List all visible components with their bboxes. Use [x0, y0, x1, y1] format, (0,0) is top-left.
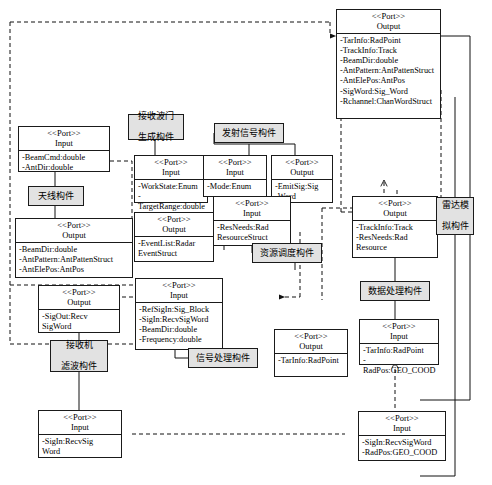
component-emit-signal[interactable]: 发射信号构件: [214, 123, 284, 143]
port-attributes: -Mode:Enum: [204, 180, 266, 194]
port-attr: -WorkState:Enum: [138, 182, 204, 192]
port-attr: -BeamDir:double: [19, 245, 129, 255]
port-attributes: -TarInfo:RadPoint -TrackInfo:Track -Beam…: [337, 34, 440, 109]
uml-component-port-diagram: <<Port>> Output -RecvChW:Channel Word <<…: [0, 0, 492, 485]
port-attr: -ResNeeds:Rad: [217, 223, 287, 233]
port-recvfilter-output[interactable]: <<Port>> Output -SigOut:Recv SigWord: [38, 285, 120, 333]
port-attr: Resource: [356, 243, 434, 253]
component-label-line2: 拟构件: [442, 221, 469, 232]
port-attr: -AntDir:double: [22, 163, 106, 173]
port-attr: -AntElePos:AntPos: [19, 265, 129, 275]
port-ressched-input[interactable]: <<Port>> Input -ResNeeds:Rad ResourceStr…: [213, 196, 291, 246]
port-kind: Input: [41, 423, 119, 433]
component-label-line1: 信号处理构件: [196, 353, 250, 364]
component-receiver-filter[interactable]: 接收机 滤波构件: [50, 340, 108, 372]
port-header: <<Port>> Input: [360, 320, 438, 344]
port-kind: Output: [339, 22, 438, 32]
port-attr: ResourceStruct: [217, 233, 287, 243]
port-attr: -TarInfo:RadPoint: [340, 36, 437, 46]
port-radarsim-input[interactable]: <<Port>> Input -SigIn:RecvSigWord -RadPo…: [358, 411, 446, 461]
port-header: <<Port>> Output: [353, 197, 437, 221]
component-resource-scheduling[interactable]: 资源调度构件: [252, 243, 322, 263]
port-attr: -ResNeeds:Rad: [356, 233, 434, 243]
component-label-line2: 滤波构件: [61, 361, 97, 372]
component-label-line1: 接收波门: [138, 111, 174, 122]
port-ressched-output[interactable]: <<Port>> Output -TrackInfo:Track -ResNee…: [352, 196, 438, 258]
port-attr: -RadPos:GEO_COOD: [363, 356, 435, 376]
component-data-processing[interactable]: 数据处理构件: [360, 281, 430, 301]
port-attr: -SigIn:RecvSigWord: [362, 438, 442, 448]
port-header: <<Port>> Output: [39, 286, 119, 310]
port-attributes: -WorkState:Enum -TargetRange:double: [135, 180, 207, 214]
port-dataproc-input[interactable]: <<Port>> Input -TarInfo:RadPoint -RadPos…: [359, 319, 439, 365]
port-antenna-input[interactable]: <<Port>> Input -BeamCmd:double -AntDir:d…: [18, 126, 110, 172]
port-kind: Output: [277, 342, 345, 352]
port-attr: Word: [42, 447, 118, 457]
component-label-line2: 生成构件: [138, 132, 174, 143]
port-attr: -AntElePos:AntPos: [340, 76, 437, 86]
port-header: <<Port>> Input: [136, 279, 222, 303]
port-attr: -EmitSig:Sig: [275, 182, 329, 192]
port-header: <<Port>> Output: [275, 330, 347, 354]
port-kind: Output: [41, 298, 117, 308]
component-antenna[interactable]: 天线构件: [28, 186, 84, 206]
port-attr: -SigIn:RecvSigWord: [139, 315, 219, 325]
port-attributes: -ResNeeds:Rad ResourceStruct: [214, 221, 290, 245]
component-recv-gate[interactable]: 接收波门 生成构件: [128, 114, 184, 140]
port-attributes: -BeamDir:double -AntPattern:AntPattenStr…: [16, 243, 132, 277]
component-radar-simulation[interactable]: 雷达模 拟构件: [436, 197, 474, 235]
port-emitsignal-input[interactable]: <<Port>> Input -Mode:Enum: [203, 155, 267, 197]
port-antenna-output[interactable]: <<Port>> Output -BeamDir:double -AntPatt…: [15, 218, 133, 278]
port-sigproc-input[interactable]: <<Port>> Input -RefSigIn:Sig_Block -SigI…: [135, 278, 223, 350]
port-kind: Input: [362, 332, 436, 342]
component-label-line1: 数据处理构件: [368, 286, 422, 297]
port-attr: -SigOut:Recv: [42, 312, 116, 322]
port-header: <<Port>> Input: [359, 412, 445, 436]
port-attr: -AntPattern:AntPattenStruct: [19, 255, 129, 265]
port-kind: Output: [274, 168, 330, 178]
port-header: <<Port>> Input: [39, 411, 121, 435]
port-kind: Input: [137, 168, 205, 178]
port-attr: -Frequency:double: [139, 335, 219, 345]
port-attr: -TarInfo:RadPoint: [363, 346, 435, 356]
port-kind: Input: [216, 209, 288, 219]
port-attr: -AntPattern:AntPattenStruct: [340, 66, 437, 76]
port-sigproc-output[interactable]: <<Port>> Output -TarInfo:RadPoint: [274, 329, 348, 377]
port-header: <<Port>> Output: [272, 156, 332, 180]
port-radarsim-output[interactable]: <<Port>> Output -TarInfo:RadPoint -Track…: [336, 9, 441, 119]
port-attributes: -SigIn:RecvSig Word: [39, 435, 121, 459]
port-attributes: -SigIn:RecvSigWord -RadPos:GEO_COOD: [359, 436, 445, 460]
component-signal-processing[interactable]: 信号处理构件: [188, 348, 258, 368]
port-attr: -TrackInfo:Track: [356, 223, 434, 233]
port-attr: -BeamDir:double: [340, 56, 437, 66]
port-attr: SigWord: [42, 322, 116, 332]
port-attr: -RadPos:GEO_COOD: [362, 448, 442, 458]
port-kind: Input: [21, 139, 107, 149]
component-label-line1: 天线构件: [38, 191, 74, 202]
port-recvgate-input[interactable]: <<Port>> Input -WorkState:Enum -TargetRa…: [134, 155, 208, 203]
port-header: <<Port>> Input: [135, 156, 207, 180]
port-attr: -Mode:Enum: [207, 182, 263, 192]
port-attr: -BeamCmd:double: [22, 153, 106, 163]
port-attributes: -TarInfo:RadPoint -RadPos:GEO_COOD: [360, 344, 438, 378]
port-kind: Input: [361, 424, 443, 434]
port-kind: Output: [355, 209, 435, 219]
port-attr: -TargetRange:double: [138, 192, 204, 212]
port-kind: Input: [206, 168, 264, 178]
port-attr: EventStruct: [138, 249, 210, 259]
port-attr: -SigWord:Sig_Word: [340, 87, 437, 97]
port-attr: -RefSigIn:Sig_Block: [139, 305, 219, 315]
port-kind: Output: [18, 231, 130, 241]
port-recvfilter-input[interactable]: <<Port>> Input -SigIn:RecvSig Word: [38, 410, 122, 458]
component-label-line1: 接收机: [61, 340, 97, 351]
port-header: <<Port>> Output: [337, 10, 440, 34]
port-header: <<Port>> Input: [214, 197, 290, 221]
component-label-line1: 发射信号构件: [222, 128, 276, 139]
port-header: <<Port>> Output: [135, 213, 213, 237]
component-label-line1: 雷达模: [442, 200, 469, 211]
component-label-line1: 资源调度构件: [260, 248, 314, 259]
port-recvgate-output-eventlist[interactable]: <<Port>> Output -EventList:Radar EventSt…: [134, 212, 214, 262]
port-attr: -SigIn:RecvSig: [42, 437, 118, 447]
port-header: <<Port>> Input: [204, 156, 266, 180]
port-attributes: -RefSigIn:Sig_Block -SigIn:RecvSigWord -…: [136, 303, 222, 347]
